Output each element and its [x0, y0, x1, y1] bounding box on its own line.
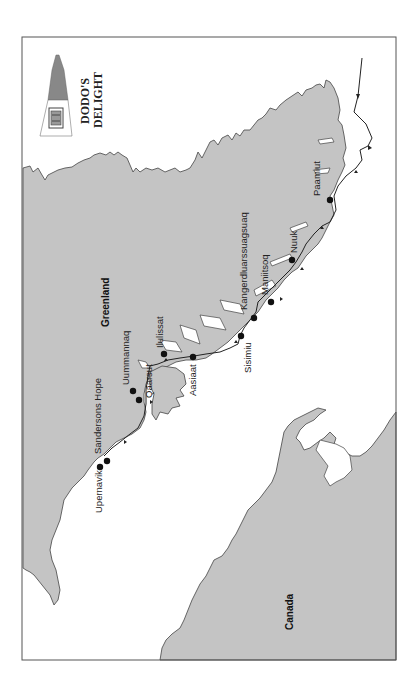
label-greenland: Greenland	[100, 278, 111, 327]
port-qaarsut	[136, 397, 142, 403]
route-arrow	[280, 297, 283, 301]
crest-inner-icon	[51, 111, 61, 125]
route-arrow	[234, 340, 238, 343]
label-paamiut: Paamiut	[311, 161, 322, 196]
port-sandersons-hope	[104, 458, 110, 464]
canada-landmass	[160, 408, 396, 660]
disko-island	[150, 366, 186, 420]
label-qaarsut: Qaarsut	[143, 364, 154, 398]
port-paamiut	[327, 197, 333, 203]
label-sisimiu: Sisimiu	[242, 342, 253, 373]
label-aasiaat: Aasiaat	[187, 364, 198, 396]
label-maniitsoq: Maniitsoq	[259, 254, 270, 295]
route-map: Paamiut Nuuk Maniitsoq Kangerdluarssuags…	[0, 0, 415, 700]
label-sandersons-hope: Sandersons Hope	[92, 378, 103, 454]
port-uummannaq	[130, 388, 136, 394]
label-upernavik: Upernavik	[93, 470, 104, 513]
port-kangerdluarssuagsuaq	[251, 315, 257, 321]
route-arrow	[368, 145, 372, 150]
label-kangerdluarssuagsuaq: Kangerdluarssuagsuaq	[238, 212, 249, 310]
port-maniitsoq	[268, 299, 274, 305]
label-ilulissat: Ilulissat	[154, 316, 165, 348]
label-canada: Canada	[284, 593, 295, 630]
label-uummannaq: Uummannaq	[120, 331, 131, 385]
title-line-2: DELIGHT	[91, 72, 105, 128]
route-arrow	[300, 267, 304, 270]
label-nuuk: Nuuk	[288, 231, 299, 253]
port-upernavik	[97, 464, 103, 470]
title-line-1: DODO'S	[78, 78, 92, 124]
sail-icon	[48, 55, 68, 100]
route-arrow	[356, 94, 360, 99]
port-ilulissat	[161, 351, 167, 357]
port-aasiaat	[190, 354, 196, 360]
port-sisimiu	[238, 333, 244, 339]
route-arrow	[124, 440, 127, 444]
dodos-delight-logo	[40, 55, 72, 136]
route-arrow	[354, 170, 358, 173]
port-nuuk	[289, 257, 295, 263]
